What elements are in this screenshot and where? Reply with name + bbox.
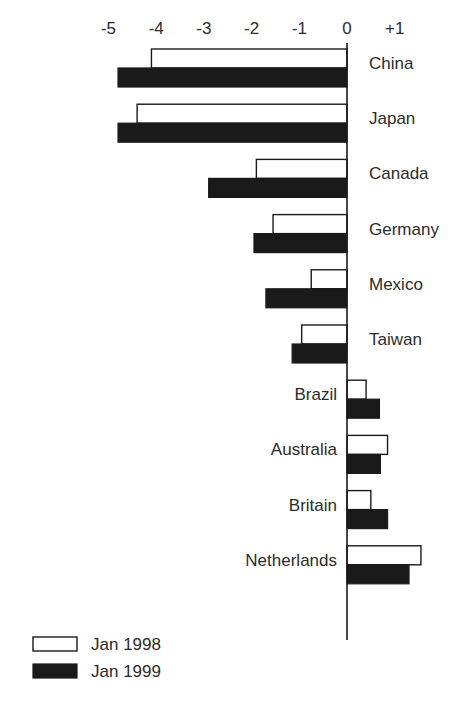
- category-label: Brazil: [294, 385, 337, 404]
- bar-jan-1999: [254, 234, 347, 253]
- x-tick-label: +1: [385, 19, 404, 38]
- bar-jan-1999: [347, 399, 379, 418]
- bar-jan-1998: [347, 491, 371, 510]
- chart-canvas: -5-4-3-2-10+1 ChinaJapanCanadaGermanyMex…: [0, 0, 470, 712]
- x-tick-label: 0: [342, 19, 351, 38]
- bar-jan-1998: [347, 546, 421, 565]
- bar-jan-1998: [347, 435, 388, 454]
- x-tick-label: -3: [196, 19, 211, 38]
- category-label: Mexico: [369, 275, 423, 294]
- bar-jan-1998: [311, 270, 347, 289]
- bar-jan-1998: [347, 380, 366, 399]
- bar-jan-1999: [347, 454, 380, 473]
- x-tick-label: -2: [244, 19, 259, 38]
- bar-jan-1999: [209, 178, 347, 197]
- x-tick-label: -4: [149, 19, 164, 38]
- bar-jan-1999: [292, 344, 347, 363]
- x-tick-label: -5: [101, 19, 116, 38]
- bar-jan-1999: [266, 289, 347, 308]
- bar-jan-1999: [347, 565, 409, 584]
- category-label: Netherlands: [245, 551, 337, 570]
- bar-jan-1998: [137, 104, 347, 123]
- category-label: Taiwan: [369, 330, 422, 349]
- category-label: Germany: [369, 220, 439, 239]
- bar-jan-1998: [302, 325, 347, 344]
- bar-jan-1998: [273, 215, 347, 234]
- bar-jan-1999: [118, 123, 347, 142]
- bar-group: [118, 49, 347, 87]
- bar-chart: -5-4-3-2-10+1 ChinaJapanCanadaGermanyMex…: [0, 0, 470, 712]
- bar-jan-1998: [151, 49, 347, 68]
- category-label: Britain: [289, 496, 337, 515]
- category-label: China: [369, 54, 414, 73]
- category-label: Canada: [369, 164, 429, 183]
- legend-label: Jan 1999: [91, 662, 161, 681]
- x-tick-label: -1: [292, 19, 307, 38]
- category-label: Japan: [369, 109, 415, 128]
- bar-jan-1999: [118, 68, 347, 87]
- bar-jan-1999: [347, 510, 388, 529]
- bar-jan-1998: [256, 159, 347, 178]
- bar-group: [118, 104, 347, 142]
- category-label: Australia: [271, 440, 338, 459]
- legend-swatch-black: [33, 664, 77, 678]
- legend-swatch-white: [33, 637, 77, 651]
- legend-label: Jan 1998: [91, 635, 161, 654]
